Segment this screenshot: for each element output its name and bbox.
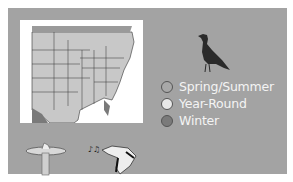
- year-round-swatch: [161, 98, 173, 110]
- legend-label: Year-Round: [179, 96, 247, 111]
- season-legend: Spring/Summer Year-Round Winter: [161, 78, 274, 129]
- singing-bird-icon: ♪♫: [88, 142, 138, 180]
- legend-label: Spring/Summer: [179, 79, 274, 94]
- svg-text:♪♫: ♪♫: [88, 145, 100, 154]
- spring-summer-swatch: [161, 81, 173, 93]
- winter-swatch: [161, 115, 173, 127]
- range-card: Spring/Summer Year-Round Winter ♪♫: [8, 8, 287, 174]
- range-map: [20, 20, 143, 123]
- legend-label: Winter: [179, 113, 219, 128]
- legend-item-spring-summer: Spring/Summer: [161, 78, 274, 95]
- bird-silhouette-icon: [194, 30, 232, 78]
- legend-item-year-round: Year-Round: [161, 95, 274, 112]
- bird-feeder-icon: [24, 141, 68, 181]
- legend-item-winter: Winter: [161, 112, 274, 129]
